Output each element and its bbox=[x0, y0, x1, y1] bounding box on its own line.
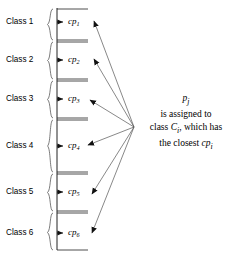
cp-label-1: cp1 bbox=[68, 17, 80, 26]
class-braces bbox=[48, 9, 54, 250]
cp-label-6-base: cp bbox=[68, 227, 77, 237]
cp-label-2-sub: 2 bbox=[77, 58, 80, 65]
caption-p-sub: j bbox=[187, 97, 189, 106]
caption-line-3-suffix: , which has bbox=[179, 122, 222, 132]
class-boundary-ticks bbox=[57, 9, 88, 250]
cp-label-3: cp3 bbox=[68, 94, 80, 103]
class-label-3: Class 3 bbox=[6, 95, 33, 103]
class-label-1: Class 1 bbox=[6, 18, 33, 26]
caption-line-3-prefix: class bbox=[150, 122, 171, 132]
cp-label-6-sub: 6 bbox=[77, 231, 80, 238]
cp-label-5-sub: 5 bbox=[77, 190, 80, 197]
caption-line-4-prefix: the closest bbox=[159, 138, 201, 148]
assignment-caption: pj is assigned to class Ci, which has th… bbox=[136, 92, 236, 153]
caption-line-2: is assigned to bbox=[136, 108, 236, 120]
class-label-4: Class 4 bbox=[6, 142, 33, 150]
cp-label-2-base: cp bbox=[68, 54, 77, 64]
cp-markers bbox=[57, 22, 63, 233]
caption-line-4: the closest cpi bbox=[136, 137, 236, 153]
cp-label-5-base: cp bbox=[68, 186, 77, 196]
cp-label-1-sub: 1 bbox=[77, 20, 80, 27]
cp-label-5: cp5 bbox=[68, 187, 80, 196]
cp-label-1-base: cp bbox=[68, 16, 77, 26]
cp-label-6: cp6 bbox=[68, 228, 80, 237]
cp-label-2: cp2 bbox=[68, 55, 80, 64]
caption-line-3: class Ci, which has bbox=[136, 121, 236, 137]
cp-label-4-base: cp bbox=[68, 140, 77, 150]
caption-line-1: pj bbox=[136, 92, 236, 108]
class-label-5: Class 5 bbox=[6, 188, 33, 196]
cp-label-3-sub: 3 bbox=[77, 97, 80, 104]
class-assignment-figure: Class 1 Class 2 Class 3 Class 4 Class 5 … bbox=[0, 0, 236, 258]
class-label-2: Class 2 bbox=[6, 56, 33, 64]
cp-label-4-sub: 4 bbox=[77, 144, 80, 151]
class-label-6: Class 6 bbox=[6, 229, 33, 237]
caption-cp-sub: i bbox=[210, 142, 212, 151]
cp-label-4: cp4 bbox=[68, 141, 80, 150]
cp-label-3-base: cp bbox=[68, 93, 77, 103]
assignment-arrows bbox=[88, 21, 134, 233]
